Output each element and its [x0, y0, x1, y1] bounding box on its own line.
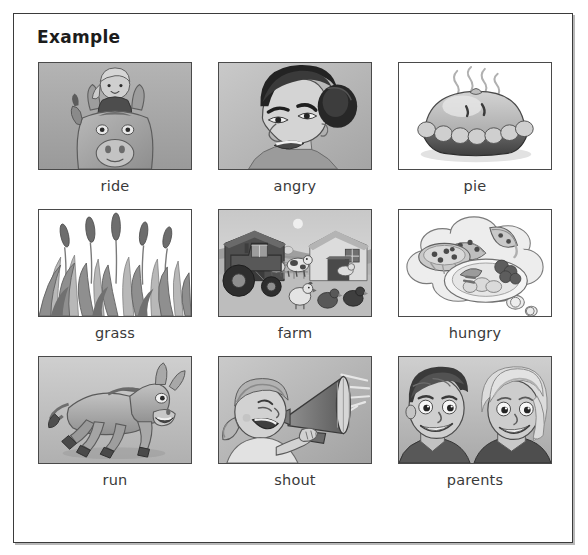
page-title: Example	[37, 27, 120, 47]
grid-cell-hungry[interactable]: hungry	[398, 209, 552, 342]
cell-label: hungry	[449, 326, 502, 342]
cell-label: pie	[464, 179, 487, 195]
grid-cell-parents[interactable]: parents	[398, 356, 552, 489]
grid-cell-angry[interactable]: angry	[218, 62, 372, 195]
grid-cell-run[interactable]: run	[38, 356, 192, 489]
grid-cell-pie[interactable]: pie	[398, 62, 552, 195]
grid-cell-ride[interactable]: ride	[38, 62, 192, 195]
picture-steaming-pie[interactable]	[398, 62, 552, 170]
picture-angry-woman-face[interactable]	[218, 62, 372, 170]
grid-row: ride	[38, 62, 550, 195]
cell-label: angry	[274, 179, 317, 195]
grid-cell-farm[interactable]: farm	[218, 209, 372, 342]
picture-grid: ride	[38, 62, 550, 489]
cell-label: shout	[274, 473, 316, 489]
cell-label: parents	[447, 473, 503, 489]
worksheet-page: Example	[0, 0, 588, 555]
worksheet-frame: Example	[13, 13, 573, 543]
cell-label: grass	[95, 326, 135, 342]
grid-cell-grass[interactable]: grass	[38, 209, 192, 342]
picture-girl-riding-donkey[interactable]	[38, 62, 192, 170]
picture-tall-grass-with-seed-heads[interactable]	[38, 209, 192, 317]
grid-row: grass	[38, 209, 550, 342]
grid-cell-shout[interactable]: shout	[218, 356, 372, 489]
cell-label: farm	[278, 326, 313, 342]
picture-farm-scene-tractor-barn-animals[interactable]	[218, 209, 372, 317]
grid-row: run	[38, 356, 550, 489]
cell-label: run	[103, 473, 128, 489]
picture-girl-shouting-into-megaphone[interactable]	[218, 356, 372, 464]
cell-label: ride	[101, 179, 130, 195]
picture-man-and-woman-faces[interactable]	[398, 356, 552, 464]
picture-running-donkey[interactable]	[38, 356, 192, 464]
picture-thought-bubble-of-food[interactable]	[398, 209, 552, 317]
